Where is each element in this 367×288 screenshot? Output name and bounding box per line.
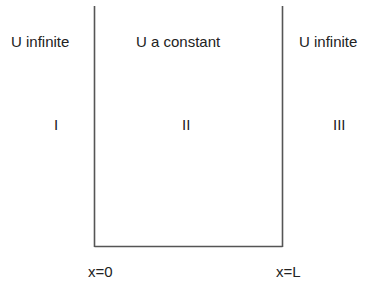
region-1-roman-label: I (54, 117, 58, 132)
region-1-potential-label: U infinite (11, 34, 69, 49)
region-3-potential-label: U infinite (299, 34, 357, 49)
boundary-x0-label: x=0 (88, 264, 113, 279)
region-3-roman-label: III (333, 117, 346, 132)
region-2-potential-label: U a constant (136, 34, 220, 49)
boundary-xL-label: x=L (276, 264, 301, 279)
region-2-roman-label: II (182, 117, 190, 132)
